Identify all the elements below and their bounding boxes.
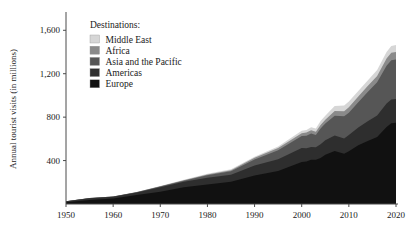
y-tick-label: 800	[47, 112, 61, 122]
legend-swatch-europe	[90, 80, 100, 88]
y-tick-label: 1,200	[40, 69, 61, 79]
x-tick-label: 2000	[293, 210, 312, 220]
legend-label-middle-east: Middle East	[106, 35, 153, 45]
chart-canvas: 4008001,2001,600195019601970198019902000…	[0, 0, 414, 237]
y-tick-label: 1,600	[40, 25, 61, 35]
legend-label-americas: Americas	[106, 68, 143, 78]
x-tick-label: 1980	[198, 210, 217, 220]
x-tick-label: 2020	[387, 210, 406, 220]
legend-swatch-asia-and-the-pacific	[90, 57, 100, 65]
x-tick-label: 1960	[104, 210, 123, 220]
x-tick-label: 1950	[57, 210, 76, 220]
legend-label-asia-and-the-pacific: Asia and the Pacific	[106, 57, 182, 67]
tourism-area-chart: 4008001,2001,600195019601970198019902000…	[0, 0, 414, 237]
legend-label-europe: Europe	[106, 79, 133, 89]
y-tick-label: 400	[47, 156, 61, 166]
x-tick-label: 1970	[151, 210, 170, 220]
legend-label-africa: Africa	[106, 46, 131, 56]
x-tick-label: 1990	[246, 210, 265, 220]
legend-swatch-africa	[90, 46, 100, 54]
y-axis-title: Annual tourist visits (in millions)	[8, 49, 18, 169]
legend-title: Destinations:	[90, 20, 140, 30]
legend-swatch-americas	[90, 69, 100, 77]
legend-swatch-middle-east	[90, 35, 100, 43]
x-tick-label: 2010	[340, 210, 359, 220]
